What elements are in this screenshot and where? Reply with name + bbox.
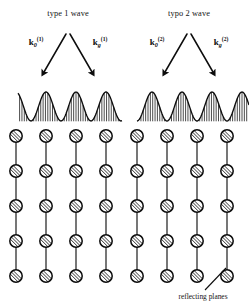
atom [10, 165, 22, 177]
atom [70, 165, 82, 177]
atom [70, 200, 82, 212]
panel-title-type-1: type 1 wave [47, 9, 89, 18]
wavevector-arrow-kg-2 [191, 34, 213, 72]
standing-wave-curve-type-2 [137, 92, 249, 121]
wavevector-arrows-type-1 [44, 34, 92, 72]
atom [10, 130, 22, 142]
wavevector-label-kg-2: kg(2) [214, 36, 229, 48]
panel-title-type-2: typo 2 wave [168, 9, 210, 18]
atom [191, 165, 203, 177]
atom [40, 130, 52, 142]
atom [161, 200, 173, 212]
wavevector-label-kg-1: kg(1) [93, 36, 108, 48]
atom [100, 165, 112, 177]
atom [100, 130, 112, 142]
diagram-svg: type 1 wave k0(1) kg(1) typo 2 wave k0(2… [0, 0, 249, 306]
atom [10, 235, 22, 247]
atom [191, 130, 203, 142]
wavevector-arrow-kg-1 [70, 34, 92, 72]
atom [221, 235, 233, 247]
atom [161, 270, 173, 282]
atom [70, 270, 82, 282]
wavevector-arrows-type-2 [165, 34, 213, 72]
atom [70, 130, 82, 142]
reflecting-planes-caption: reflecting planes [178, 292, 227, 301]
atom [161, 165, 173, 177]
atom [131, 130, 143, 142]
wavevector-label-k0-1: k0(1) [29, 36, 44, 48]
atom [131, 270, 143, 282]
atom [40, 200, 52, 212]
wavevector-arrow-k0-1 [44, 34, 66, 72]
atom [191, 200, 203, 212]
atom [161, 235, 173, 247]
atom [100, 200, 112, 212]
atom [161, 130, 173, 142]
atom [131, 200, 143, 212]
atom [70, 235, 82, 247]
atom [131, 165, 143, 177]
atom [10, 200, 22, 212]
wavevector-label-k0-2: k0(2) [150, 36, 165, 48]
atom [100, 235, 112, 247]
atom [221, 165, 233, 177]
atom [191, 235, 203, 247]
panel-type-2: typo 2 wave k0(2) kg(2) [137, 9, 249, 121]
atom [221, 200, 233, 212]
atom [40, 270, 52, 282]
panel-type-1: type 1 wave k0(1) kg(1) [18, 9, 122, 121]
atom [191, 270, 203, 282]
lattice-atoms [10, 130, 233, 282]
atom [40, 235, 52, 247]
atom [100, 270, 112, 282]
atom [10, 270, 22, 282]
wavevector-arrow-k0-2 [165, 34, 187, 72]
figure-canvas: type 1 wave k0(1) kg(1) typo 2 wave k0(2… [0, 0, 249, 306]
atom [40, 165, 52, 177]
atom [131, 235, 143, 247]
atom [221, 130, 233, 142]
